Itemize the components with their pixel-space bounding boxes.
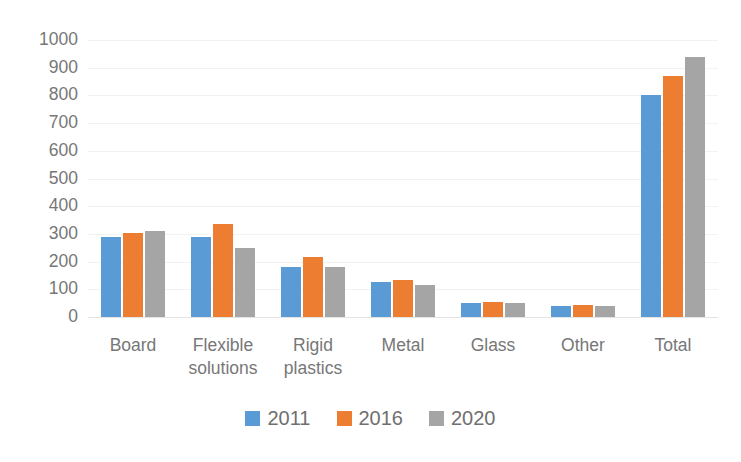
legend-item-2020[interactable]: 2020 <box>429 408 496 428</box>
bar-2016[interactable] <box>483 302 503 317</box>
bar-2020[interactable] <box>685 57 705 317</box>
y-axis-tick-label: 500 <box>0 170 78 188</box>
bar-group <box>88 40 178 317</box>
bar-2020[interactable] <box>235 248 255 317</box>
bar-group <box>358 40 448 317</box>
bar-2020[interactable] <box>415 285 435 317</box>
legend-swatch-icon <box>337 411 352 426</box>
x-axis-tick-label: Metal <box>358 334 448 380</box>
y-axis-tick-label: 700 <box>0 114 78 132</box>
x-axis-tick-label: Other <box>538 334 628 380</box>
y-axis-tick-label: 400 <box>0 197 78 215</box>
bar-2016[interactable] <box>663 76 683 317</box>
bar-2011[interactable] <box>281 267 301 317</box>
y-axis: 10009008007006005004003002001000 <box>0 40 78 317</box>
gridline <box>88 317 718 318</box>
bar-chart: 10009008007006005004003002001000 BoardFl… <box>0 0 741 462</box>
x-axis-tick-label: Flexible solutions <box>178 334 268 380</box>
x-axis: BoardFlexible solutionsRigid plasticsMet… <box>88 334 718 380</box>
legend-label: 2020 <box>451 408 496 428</box>
legend-item-2016[interactable]: 2016 <box>337 408 404 428</box>
bar-group <box>538 40 628 317</box>
y-axis-tick-label: 100 <box>0 281 78 299</box>
bar-2011[interactable] <box>101 237 121 317</box>
bar-2020[interactable] <box>595 306 615 317</box>
bar-2016[interactable] <box>123 233 143 317</box>
bar-2011[interactable] <box>461 303 481 317</box>
bar-2020[interactable] <box>325 267 345 317</box>
legend-label: 2016 <box>359 408 404 428</box>
y-axis-tick-label: 0 <box>0 308 78 326</box>
bar-group <box>268 40 358 317</box>
legend-item-2011[interactable]: 2011 <box>245 408 310 428</box>
bar-2016[interactable] <box>303 257 323 317</box>
y-axis-tick-label: 200 <box>0 253 78 271</box>
bar-2011[interactable] <box>191 237 211 317</box>
bar-2016[interactable] <box>573 305 593 317</box>
y-axis-tick-label: 800 <box>0 87 78 105</box>
bar-2016[interactable] <box>213 224 233 317</box>
bar-2011[interactable] <box>551 306 571 317</box>
legend-swatch-icon <box>429 411 444 426</box>
bar-groups <box>88 40 718 317</box>
legend-label: 2011 <box>267 408 310 428</box>
bar-2016[interactable] <box>393 280 413 317</box>
y-axis-tick-label: 300 <box>0 225 78 243</box>
y-axis-tick-label: 900 <box>0 59 78 77</box>
bar-group <box>448 40 538 317</box>
x-axis-tick-label: Total <box>628 334 718 380</box>
bar-2020[interactable] <box>505 303 525 317</box>
bar-2011[interactable] <box>371 282 391 317</box>
legend-swatch-icon <box>245 411 260 426</box>
legend: 201120162020 <box>0 408 741 428</box>
bar-group <box>628 40 718 317</box>
y-axis-tick-label: 600 <box>0 142 78 160</box>
bar-group <box>178 40 268 317</box>
x-axis-tick-label: Glass <box>448 334 538 380</box>
bar-2011[interactable] <box>641 95 661 317</box>
bar-2020[interactable] <box>145 231 165 317</box>
y-axis-tick-label: 1000 <box>0 31 78 49</box>
x-axis-tick-label: Rigid plastics <box>268 334 358 380</box>
x-axis-tick-label: Board <box>88 334 178 380</box>
